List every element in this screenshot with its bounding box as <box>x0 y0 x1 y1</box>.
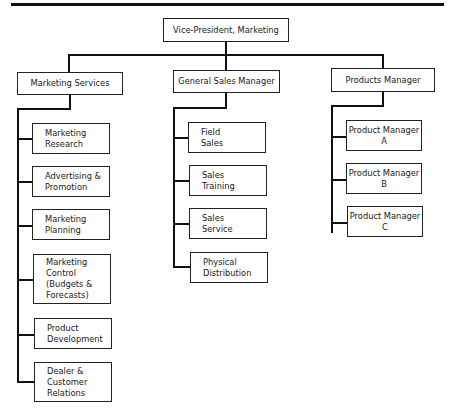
products-manager-label: Products Manager <box>346 75 421 86</box>
box-label: Marketing Research <box>45 128 86 150</box>
products-manager-box: Products Manager <box>331 68 435 92</box>
product-manager-b-box: Product Manager B <box>346 163 422 194</box>
connector <box>331 105 384 107</box>
box-label: Sales Training <box>202 170 235 192</box>
connector <box>331 222 348 224</box>
box-label: Marketing Control (Budgets & Forecasts) <box>46 257 93 301</box>
connector <box>17 334 34 336</box>
product-manager-c-box: Product Manager C <box>347 206 423 237</box>
vp-marketing-label: Vice-President, Marketing <box>173 25 279 36</box>
marketing-services-box: Marketing Services <box>17 72 123 95</box>
box-label: Product Manager A <box>349 125 420 147</box>
advertising-promotion-box: Advertising & Promotion <box>32 166 110 197</box>
connector <box>17 279 34 281</box>
connector <box>331 136 347 138</box>
connector <box>17 381 35 383</box>
connector <box>69 95 71 109</box>
sales-service-box: Sales Service <box>189 208 267 239</box>
connector <box>173 266 191 268</box>
box-label: Marketing Planning <box>45 214 86 236</box>
product-manager-a-box: Product Manager A <box>346 120 422 151</box>
field-sales-box: Field Sales <box>188 122 266 153</box>
box-label: Physical Distribution <box>203 257 251 279</box>
connector <box>68 54 70 72</box>
box-label: Product Manager C <box>350 211 421 233</box>
connector <box>173 107 227 109</box>
physical-distribution-box: Physical Distribution <box>190 252 268 283</box>
vp-marketing-box: Vice-President, Marketing <box>163 18 289 42</box>
marketing-research-box: Marketing Research <box>32 123 110 154</box>
box-label: Product Manager B <box>349 168 420 190</box>
connector <box>17 138 33 140</box>
connector <box>17 108 71 110</box>
connector <box>382 54 384 68</box>
box-label: Dealer & Customer Relations <box>47 366 87 399</box>
connector <box>225 93 227 108</box>
product-development-box: Product Development <box>34 318 112 349</box>
marketing-control-box: Marketing Control (Budgets & Forecasts) <box>33 254 111 304</box>
general-sales-manager-box: General Sales Manager <box>173 70 280 93</box>
connector <box>331 105 333 233</box>
sales-training-box: Sales Training <box>189 165 267 196</box>
marketing-planning-box: Marketing Planning <box>32 209 110 240</box>
box-label: Product Development <box>47 323 103 345</box>
connector <box>17 181 33 183</box>
box-label: Field Sales <box>201 127 223 149</box>
connector <box>173 223 190 225</box>
top-rule <box>11 3 444 6</box>
connector <box>225 54 227 70</box>
box-label: Advertising & Promotion <box>45 171 101 193</box>
general-sales-manager-label: General Sales Manager <box>178 76 274 87</box>
box-label: Sales Service <box>202 213 233 235</box>
connector <box>173 180 189 182</box>
connector <box>173 107 175 267</box>
marketing-services-label: Marketing Services <box>31 78 110 89</box>
dealer-customer-relations-box: Dealer & Customer Relations <box>34 362 112 402</box>
connector <box>331 179 347 181</box>
connector <box>173 137 189 139</box>
connector <box>17 108 19 382</box>
connector <box>17 225 33 227</box>
